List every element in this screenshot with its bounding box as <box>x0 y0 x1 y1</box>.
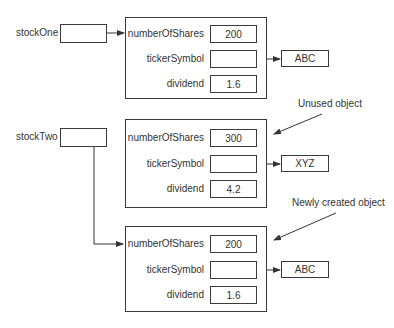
field-label-ticker-symbol: tickerSymbol <box>124 264 204 276</box>
string-object-abc: ABC <box>281 261 329 278</box>
string-object-xyz: XYZ <box>281 155 329 172</box>
field-value-ticker-symbol <box>210 50 257 68</box>
variable-box-stockone <box>60 24 107 43</box>
field-label-ticker-symbol: tickerSymbol <box>124 158 204 170</box>
field-value-dividend: 1.6 <box>210 75 257 93</box>
field-label-number-of-shares: numberOfShares <box>124 238 204 250</box>
field-value-number-of-shares: 200 <box>210 235 257 253</box>
field-label-number-of-shares: numberOfShares <box>124 28 204 40</box>
field-label-dividend: dividend <box>124 78 204 90</box>
field-value-number-of-shares: 200 <box>210 25 257 43</box>
field-label-number-of-shares: numberOfShares <box>124 132 204 144</box>
field-label-dividend: dividend <box>124 289 204 301</box>
variable-label-stockone: stockOne <box>16 27 58 39</box>
annotation-newly-created-object: Newly created object <box>292 197 385 209</box>
field-value-ticker-symbol <box>210 261 257 279</box>
annotation-unused-object: Unused object <box>298 98 362 110</box>
field-value-number-of-shares: 300 <box>210 129 257 147</box>
field-label-dividend: dividend <box>124 183 204 195</box>
field-label-ticker-symbol: tickerSymbol <box>124 53 204 65</box>
string-object-abc: ABC <box>281 50 329 67</box>
field-value-dividend: 1.6 <box>210 286 257 304</box>
field-value-dividend: 4.2 <box>210 180 257 198</box>
variable-box-stocktwo <box>60 128 107 147</box>
variable-label-stocktwo: stockTwo <box>16 131 58 143</box>
field-value-ticker-symbol <box>210 155 257 173</box>
object-reference-diagram: stockOne stockTwo numberOfShares 200 tic… <box>0 0 394 328</box>
